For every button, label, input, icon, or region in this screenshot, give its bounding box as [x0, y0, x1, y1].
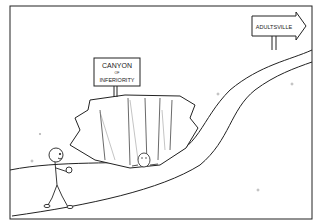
cartoon-illustration: CANYON OF INFERIORITY ADULTSVILLE: [0, 0, 318, 223]
canyon-sign-line3: INFERIORITY: [100, 77, 135, 83]
canyon-sign-line1: CANYON: [102, 62, 132, 69]
canyon-sign-line2: OF: [115, 71, 120, 75]
adultsville-sign-label: ADULTSVILLE: [256, 24, 293, 30]
